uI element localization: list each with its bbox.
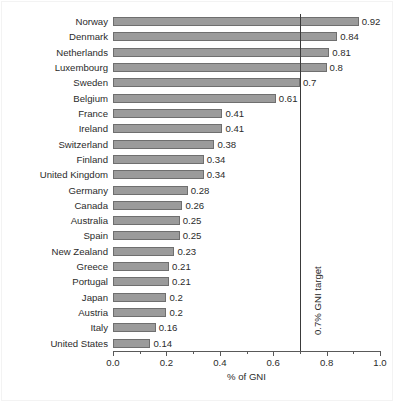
x-tick-minor — [353, 351, 354, 354]
bar-sweden — [113, 78, 300, 87]
category-label-united-states: United States — [50, 336, 108, 351]
category-label-belgium: Belgium — [73, 91, 108, 106]
bar-value-label: 0.61 — [276, 91, 298, 106]
bar-value-label: 0.23 — [174, 244, 196, 259]
category-label-ireland: Ireland — [79, 121, 108, 136]
x-tick-label: 0.2 — [160, 357, 173, 368]
bar-greece — [113, 262, 169, 271]
bar-japan — [113, 293, 166, 302]
bar-value-label: 0.28 — [188, 183, 210, 198]
gni-target-reference-line — [300, 14, 301, 351]
bar-value-label: 0.26 — [182, 198, 204, 213]
x-tick-major — [113, 351, 114, 356]
x-tick-minor — [247, 351, 248, 354]
bar-norway — [113, 17, 359, 26]
bar-value-label: 0.16 — [156, 320, 178, 335]
x-axis-title: % of GNI — [113, 371, 380, 382]
bar-australia — [113, 216, 180, 225]
bar-row: Ireland0.41 — [113, 121, 380, 136]
bar-row: United States0.14 — [113, 336, 380, 351]
x-tick-minor — [300, 351, 301, 354]
bar-value-label: 0.92 — [359, 14, 381, 29]
bar-row: Germany0.28 — [113, 183, 380, 198]
x-tick-major — [380, 351, 381, 356]
x-tick-minor — [140, 351, 141, 354]
bar-row: Greece0.21 — [113, 259, 380, 274]
bar-new-zealand — [113, 247, 174, 256]
x-tick-label: 0.4 — [213, 357, 226, 368]
bar-value-label: 0.7 — [300, 75, 316, 90]
bar-spain — [113, 231, 180, 240]
bar-row: Italy0.16 — [113, 320, 380, 335]
bar-france — [113, 109, 222, 118]
x-tick-label: 0.6 — [267, 357, 280, 368]
bar-row: Spain0.25 — [113, 228, 380, 243]
bar-value-label: 0.14 — [150, 336, 172, 351]
bar-denmark — [113, 32, 337, 41]
bar-canada — [113, 201, 182, 210]
x-tick-minor — [193, 351, 194, 354]
x-tick-label: 0.0 — [106, 357, 119, 368]
category-label-canada: Canada — [74, 198, 108, 213]
bar-row: Austria0.2 — [113, 305, 380, 320]
bar-portugal — [113, 277, 169, 286]
bar-row: New Zealand0.23 — [113, 244, 380, 259]
bar-ireland — [113, 124, 222, 133]
bar-belgium — [113, 94, 276, 103]
bar-row: Netherlands0.81 — [113, 45, 380, 60]
category-label-portugal: Portugal — [72, 274, 108, 289]
bar-value-label: 0.25 — [180, 228, 202, 243]
bar-value-label: 0.34 — [204, 167, 226, 182]
x-tick-major — [327, 351, 328, 356]
category-label-finland: Finland — [77, 152, 108, 167]
x-tick-major — [166, 351, 167, 356]
bar-row: Norway0.92 — [113, 14, 380, 29]
x-tick-major — [273, 351, 274, 356]
bar-united-states — [113, 339, 150, 348]
bar-value-label: 0.38 — [214, 137, 236, 152]
gni-target-line-label: 0.7% GNI target — [312, 266, 323, 335]
plot-area: Norway0.92Denmark0.84Netherlands0.81Luxe… — [113, 14, 380, 351]
bar-row: United Kingdom0.34 — [113, 167, 380, 182]
bar-value-label: 0.21 — [169, 259, 191, 274]
bar-netherlands — [113, 48, 329, 57]
category-label-austria: Austria — [78, 305, 108, 320]
bar-row: France0.41 — [113, 106, 380, 121]
bar-italy — [113, 323, 156, 332]
category-label-united-kingdom: United Kingdom — [40, 167, 108, 182]
category-label-netherlands: Netherlands — [56, 45, 108, 60]
x-tick-major — [220, 351, 221, 356]
bar-value-label: 0.34 — [204, 152, 226, 167]
bar-value-label: 0.84 — [337, 29, 359, 44]
category-label-italy: Italy — [90, 320, 108, 335]
bar-finland — [113, 155, 204, 164]
category-label-norway: Norway — [75, 14, 108, 29]
bar-value-label: 0.2 — [166, 305, 182, 320]
category-label-denmark: Denmark — [69, 29, 108, 44]
bar-value-label: 0.41 — [222, 106, 244, 121]
bar-germany — [113, 186, 188, 195]
bar-row: Canada0.26 — [113, 198, 380, 213]
category-label-spain: Spain — [83, 228, 108, 243]
bar-row: Japan0.2 — [113, 290, 380, 305]
bar-row: Finland0.34 — [113, 152, 380, 167]
bar-value-label: 0.2 — [166, 290, 182, 305]
bar-row: Sweden0.7 — [113, 75, 380, 90]
x-tick-label: 0.8 — [320, 357, 333, 368]
bar-row: Switzerland0.38 — [113, 137, 380, 152]
bar-row: Portugal0.21 — [113, 274, 380, 289]
bar-value-label: 0.41 — [222, 121, 244, 136]
bar-united-kingdom — [113, 170, 204, 179]
category-label-australia: Australia — [71, 213, 108, 228]
category-label-luxembourg: Luxembourg — [55, 60, 108, 75]
bar-row: Australia0.25 — [113, 213, 380, 228]
category-label-sweden: Sweden — [73, 75, 108, 90]
category-label-greece: Greece — [77, 259, 108, 274]
bar-value-label: 0.21 — [169, 274, 191, 289]
category-label-germany: Germany — [69, 183, 108, 198]
bar-austria — [113, 308, 166, 317]
bar-value-label: 0.25 — [180, 213, 202, 228]
bar-luxembourg — [113, 63, 327, 72]
bar-row: Denmark0.84 — [113, 29, 380, 44]
bar-row: Luxembourg0.8 — [113, 60, 380, 75]
